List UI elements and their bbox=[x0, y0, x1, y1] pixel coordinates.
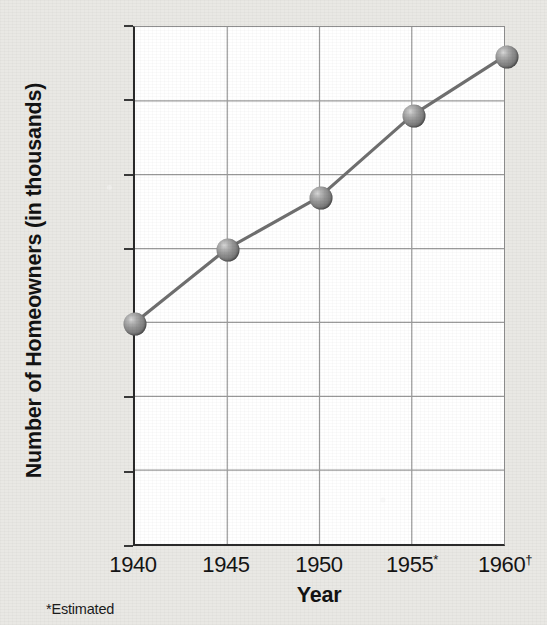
y-tick-mark-10000 bbox=[124, 396, 133, 398]
data-point-1940 bbox=[124, 313, 147, 336]
data-point-1955 bbox=[403, 105, 426, 128]
data-series-line bbox=[135, 27, 504, 544]
plot-area bbox=[133, 26, 505, 546]
y-tick-mark-20000 bbox=[124, 248, 133, 250]
data-point-1945 bbox=[217, 238, 240, 261]
x-tick-label-1945: 1945 bbox=[202, 552, 249, 578]
data-point-1950 bbox=[310, 186, 333, 209]
x-tick-label-1955: 1955* bbox=[386, 552, 438, 578]
x-tick-label-1960: 1960† bbox=[478, 552, 532, 578]
y-tick-mark-30000 bbox=[124, 99, 133, 101]
y-axis-title: Number of Homeowners (in thousands) bbox=[22, 1, 47, 561]
footnote-estimated: *Estimated bbox=[46, 601, 114, 617]
x-axis-title: Year bbox=[133, 583, 505, 608]
y-tick-mark-0 bbox=[124, 545, 133, 547]
line-chart-figure: Number of Homeowners (in thousands) 05,0… bbox=[0, 0, 547, 625]
y-tick-mark-5000 bbox=[124, 471, 133, 473]
x-tick-label-1940: 1940 bbox=[109, 552, 156, 578]
y-tick-mark-35000 bbox=[124, 25, 133, 27]
y-tick-mark-25000 bbox=[124, 174, 133, 176]
data-point-1960 bbox=[496, 45, 519, 68]
x-tick-label-1950: 1950 bbox=[295, 552, 342, 578]
